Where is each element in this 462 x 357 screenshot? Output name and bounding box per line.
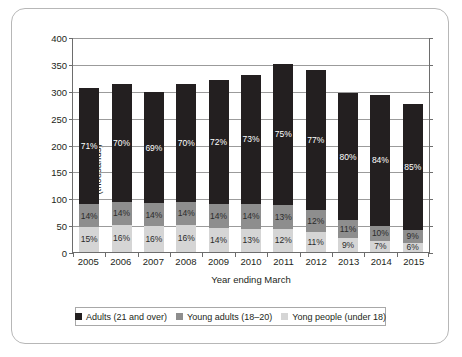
stacked-bar[interactable]: 85%9%6%	[403, 104, 423, 252]
bar-segment[interactable]: 13%	[273, 205, 293, 229]
bar-segment-label: 9%	[407, 232, 419, 241]
bar-segment[interactable]: 14%	[144, 203, 164, 226]
bar-segment[interactable]: 16%	[144, 226, 164, 252]
bar-segment[interactable]: 85%	[403, 104, 423, 230]
bar-segment[interactable]: 9%	[338, 238, 358, 252]
bar-segment[interactable]: 14%	[209, 204, 229, 228]
bar-segment[interactable]: 6%	[403, 243, 423, 252]
bar-segment[interactable]: 12%	[273, 229, 293, 252]
stacked-bar-chart: Number of people (thousands) 05010015020…	[0, 0, 462, 357]
bar-segment[interactable]: 14%	[241, 204, 261, 229]
bar-group[interactable]: 72%14%14%	[202, 38, 234, 252]
bar-group[interactable]: 71%14%15%	[73, 38, 105, 252]
bar-segment[interactable]: 12%	[306, 210, 326, 232]
y-tick-label: 50	[56, 221, 67, 232]
x-axis-title: Year ending March	[72, 274, 430, 285]
bar-segment-label: 84%	[372, 156, 389, 165]
stacked-bar[interactable]: 77%12%11%	[306, 70, 326, 252]
y-tick-mark-right	[429, 146, 433, 147]
bar-segment[interactable]: 77%	[306, 70, 326, 210]
x-tick-label: 2012	[300, 256, 333, 267]
bar-group[interactable]: 77%12%11%	[300, 38, 332, 252]
stacked-bar[interactable]: 71%14%15%	[79, 88, 99, 252]
bar-group[interactable]: 70%14%16%	[105, 38, 137, 252]
x-tick-label: 2011	[267, 256, 300, 267]
bar-segment-label: 13%	[242, 236, 259, 245]
stacked-bar[interactable]: 70%14%16%	[112, 84, 132, 252]
bar-segment[interactable]: 14%	[79, 204, 99, 227]
bar-segment-label: 14%	[145, 211, 162, 220]
bar-segment[interactable]: 11%	[306, 232, 326, 252]
bar-segment[interactable]: 14%	[176, 202, 196, 225]
bar-segment[interactable]: 70%	[176, 84, 196, 201]
bar-segment-label: 14%	[178, 209, 195, 218]
y-tick-label: 150	[51, 167, 67, 178]
x-tick-label: 2013	[332, 256, 365, 267]
bar-segment-label: 14%	[210, 212, 227, 221]
bar-group[interactable]: 69%14%16%	[138, 38, 170, 252]
bar-segment[interactable]: 80%	[338, 93, 358, 220]
bar-segment[interactable]: 14%	[112, 202, 132, 225]
x-tick-label: 2006	[105, 256, 138, 267]
bar-group[interactable]: 85%9%6%	[397, 38, 429, 252]
bar-segment[interactable]: 16%	[112, 225, 132, 252]
y-tick-mark-right	[429, 199, 433, 200]
bar-group[interactable]: 75%13%12%	[267, 38, 299, 252]
stacked-bar[interactable]: 73%14%13%	[241, 75, 261, 252]
bar-group[interactable]: 84%10%7%	[364, 38, 396, 252]
legend-item[interactable]: Young adults (18–20)	[176, 312, 272, 322]
x-tick-label: 2015	[397, 256, 430, 267]
y-tick-mark-right	[429, 172, 433, 173]
x-tick-label: 2005	[72, 256, 105, 267]
legend-item[interactable]: Adults (21 and over)	[75, 312, 167, 322]
bar-group[interactable]: 80%11%9%	[332, 38, 364, 252]
bar-segment[interactable]: 7%	[370, 241, 390, 252]
y-tick-mark-right	[429, 92, 433, 93]
bar-segment[interactable]: 15%	[79, 227, 99, 252]
bar-segment[interactable]: 11%	[338, 220, 358, 237]
x-tick-label: 2014	[365, 256, 398, 267]
bar-group[interactable]: 70%14%16%	[170, 38, 202, 252]
bar-segment-label: 69%	[145, 143, 162, 152]
legend-label: Yong people (under 18)	[292, 312, 386, 322]
bar-segment-label: 14%	[210, 236, 227, 245]
bar-segment[interactable]: 75%	[273, 64, 293, 205]
bar-segment[interactable]: 16%	[176, 225, 196, 252]
stacked-bar[interactable]: 75%13%12%	[273, 64, 293, 252]
bar-segment-label: 73%	[242, 135, 259, 144]
bar-segment[interactable]: 71%	[79, 88, 99, 204]
stacked-bar[interactable]: 69%14%16%	[144, 90, 164, 252]
bar-segment-label: 14%	[242, 212, 259, 221]
bar-segment-label: 11%	[307, 238, 323, 247]
legend-label: Young adults (18–20)	[187, 312, 272, 322]
bar-group[interactable]: 73%14%13%	[235, 38, 267, 252]
bar-segment-label: 13%	[275, 213, 292, 222]
stacked-bar[interactable]: 80%11%9%	[338, 93, 358, 252]
bar-segment[interactable]: 69%	[144, 92, 164, 204]
x-axis-tick-labels: 2005200620072008200920102011201220132014…	[72, 256, 430, 267]
y-tick-mark-right	[429, 65, 433, 66]
y-tick-label: 0	[62, 248, 67, 259]
bar-segment-label: 11%	[340, 225, 356, 234]
bar-segment-label: 16%	[113, 234, 130, 243]
bar-segment[interactable]: 10%	[370, 226, 390, 242]
bar-segment[interactable]: 72%	[209, 80, 229, 204]
bar-segment-label: 12%	[307, 217, 324, 226]
stacked-bar[interactable]: 84%10%7%	[370, 95, 390, 252]
bar-segment[interactable]: 84%	[370, 95, 390, 226]
bar-segment-label: 85%	[404, 163, 421, 172]
bar-segment[interactable]: 70%	[112, 84, 132, 201]
stacked-bar[interactable]: 70%14%16%	[176, 84, 196, 252]
bar-segment[interactable]: 13%	[241, 229, 261, 252]
bar-segment[interactable]: 14%	[209, 228, 229, 252]
stacked-bar[interactable]: 72%14%14%	[209, 80, 229, 252]
bar-segment-label: 10%	[372, 229, 389, 238]
legend-swatch-icon	[176, 313, 183, 320]
bar-segment[interactable]: 9%	[403, 230, 423, 243]
x-tick-label: 2009	[202, 256, 235, 267]
bar-segment[interactable]: 73%	[241, 75, 261, 204]
bar-segment-label: 72%	[210, 138, 227, 147]
bar-segment-label: 7%	[374, 242, 386, 251]
y-tick-mark-right	[429, 253, 433, 254]
legend-item[interactable]: Yong people (under 18)	[281, 312, 386, 322]
